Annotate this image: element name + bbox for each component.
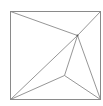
- edge-BL-B: [11, 76, 65, 100]
- edge-TR-A: [78, 12, 101, 36]
- edge-B-BR: [65, 76, 101, 100]
- edge-A-BR: [78, 36, 101, 100]
- vertices: [77, 35, 79, 37]
- vertex-A: [77, 35, 79, 37]
- edges: [11, 12, 101, 100]
- triangulation-diagram: [0, 0, 103, 106]
- edge-TL-A: [11, 12, 78, 36]
